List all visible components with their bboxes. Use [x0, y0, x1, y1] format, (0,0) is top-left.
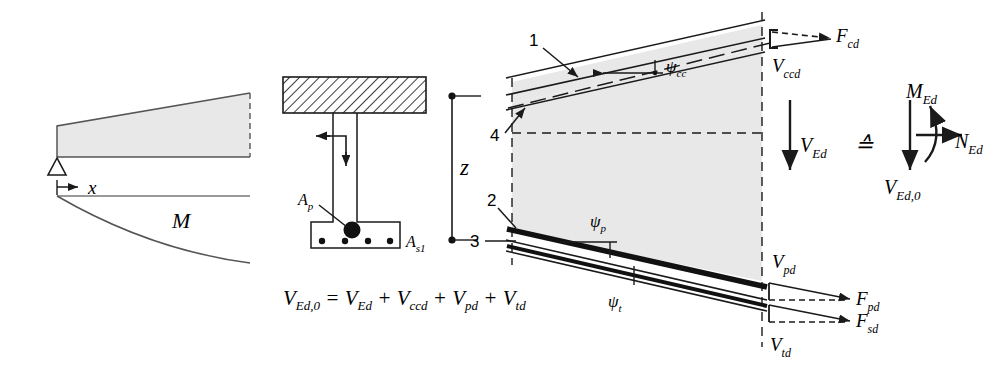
callout-3-label: 3	[470, 232, 479, 251]
z-label: z	[459, 155, 469, 180]
callout-1-label: 1	[529, 31, 538, 50]
tendon-dot	[344, 222, 361, 239]
equivalence-symbol: ≙	[855, 132, 874, 157]
callout-2-label: 2	[487, 191, 496, 210]
engineering-figure: x M Ap As1 z VEd,0 = VEd + Vccd +	[0, 0, 1005, 369]
shear-equation: VEd,0 = VEd + Vccd + Vpd + Vtd	[283, 286, 526, 313]
flange-hatched	[283, 77, 426, 113]
callout-4-label: 4	[490, 126, 499, 145]
moment-label: M	[171, 208, 192, 233]
x-label: x	[87, 177, 97, 198]
